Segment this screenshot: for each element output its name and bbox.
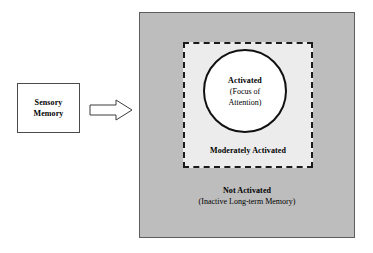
not-activated-subtitle: (Inactive Long-term Memory) — [140, 196, 354, 207]
sensory-memory-label-line1: Sensory — [34, 97, 64, 108]
not-activated-title: Not Activated — [140, 185, 354, 196]
activated-subtitle-line2: Attention) — [228, 97, 262, 108]
activated-subtitle-line1: (Focus of — [228, 86, 262, 97]
activated-label: Activated (Focus of Attention) — [228, 75, 262, 108]
memory-activation-diagram: Sensory Memory Activated (Focus of Atten… — [0, 0, 373, 253]
sensory-memory-label: Sensory Memory — [34, 97, 64, 119]
sensory-memory-box: Sensory Memory — [17, 83, 80, 133]
moderately-activated-label: Moderately Activated — [185, 146, 311, 156]
activated-title: Activated — [228, 75, 262, 86]
moderately-activated-region: Activated (Focus of Attention) Moderatel… — [183, 42, 313, 168]
not-activated-label: Not Activated (Inactive Long-term Memory… — [140, 185, 354, 207]
right-block-arrow-icon — [89, 99, 133, 121]
not-activated-region: Activated (Focus of Attention) Moderatel… — [139, 12, 355, 238]
sensory-memory-label-line2: Memory — [34, 108, 64, 119]
activated-region: Activated (Focus of Attention) — [203, 49, 287, 133]
